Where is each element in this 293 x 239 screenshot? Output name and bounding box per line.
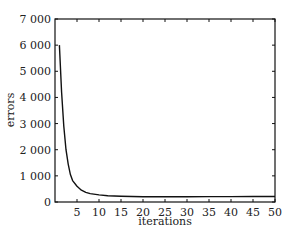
x-tick-label: 35 [202,206,216,219]
x-tick-label: 45 [246,206,260,219]
y-tick-label: 6 000 [20,39,52,52]
plot-area: 510152025303540455001 0002 0003 0004 000… [20,13,283,219]
x-tick-label: 50 [268,206,282,219]
x-axis-label: iterations [138,215,192,228]
x-tick-label: 10 [92,206,106,219]
y-tick-label: 1 000 [20,170,52,183]
y-tick-label: 2 000 [20,144,52,157]
series-line-errors [59,45,275,197]
y-tick-label: 7 000 [20,13,52,26]
y-tick-label: 3 000 [20,118,52,131]
x-tick-label: 40 [224,206,238,219]
y-tick-label: 4 000 [20,91,52,104]
chart: 510152025303540455001 0002 0003 0004 000… [0,0,293,239]
x-tick-label: 15 [114,206,128,219]
y-tick-label: 5 000 [20,65,52,78]
y-axis-label: errors [4,92,17,127]
axes-frame [55,19,275,202]
y-tick-label: 0 [44,196,51,209]
x-tick-label: 5 [74,206,81,219]
